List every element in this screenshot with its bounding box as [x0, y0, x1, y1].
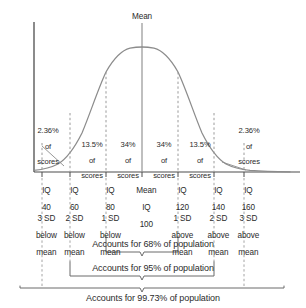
percent-value: 2.36%	[38, 126, 59, 135]
mean-top-label: Mean	[122, 13, 162, 22]
percent-value: 2.36%	[239, 126, 260, 135]
iq-word: IQ	[244, 186, 252, 195]
sd-label-minus-1sd: 1 SD below mean	[85, 206, 127, 266]
sd-line-2: below	[64, 231, 85, 240]
sd-line-1: 3 SD	[239, 214, 257, 223]
x-tick-label-mean-iq-100: Mean IQ 100	[122, 178, 162, 238]
iq-word: IQ	[214, 186, 222, 195]
percent-label-right-tail: 2.36% of scores	[222, 119, 268, 174]
percent-of-word: of	[246, 142, 252, 151]
sd-line-1: 1 SD	[173, 214, 191, 223]
percent-of-word: of	[45, 142, 51, 151]
sd-line-1: 1 SD	[101, 214, 119, 223]
percent-label-left-tail: 2.36% of scores	[21, 119, 67, 174]
bracket-label-95: Accounts for 95% of population	[0, 264, 306, 273]
percent-scores-word: scores	[37, 157, 59, 166]
percent-value: 34%	[157, 140, 172, 149]
iq-word: IQ	[178, 186, 186, 195]
iq-word: IQ	[106, 186, 114, 195]
percent-value: 13.5%	[190, 140, 211, 149]
sd-label-plus-3sd: 3 SD above mean	[223, 206, 265, 266]
percent-of-word: of	[125, 156, 131, 165]
iq-word: IQ	[142, 203, 150, 212]
percent-scores-word: scores	[238, 157, 260, 166]
normal-distribution-figure: Mean 2.36% of scores 13.5% of scores 34%…	[0, 0, 306, 308]
percent-value: 13.5%	[82, 140, 103, 149]
sd-line-1: 2 SD	[65, 214, 83, 223]
percent-value: 34%	[121, 140, 136, 149]
mean-word: Mean	[136, 186, 156, 195]
percent-of-word: of	[197, 156, 203, 165]
bracket-label-68: Accounts for 68% of population	[0, 240, 306, 249]
iq-word: IQ	[70, 186, 78, 195]
iq-value: 100	[140, 220, 153, 229]
bracket-9973-shape	[20, 286, 284, 292]
sd-line-2: above	[237, 231, 259, 240]
bracket-label-9973: Accounts for 99.73% of population	[0, 294, 306, 303]
percent-of-word: of	[89, 156, 95, 165]
percent-of-word: of	[161, 156, 167, 165]
